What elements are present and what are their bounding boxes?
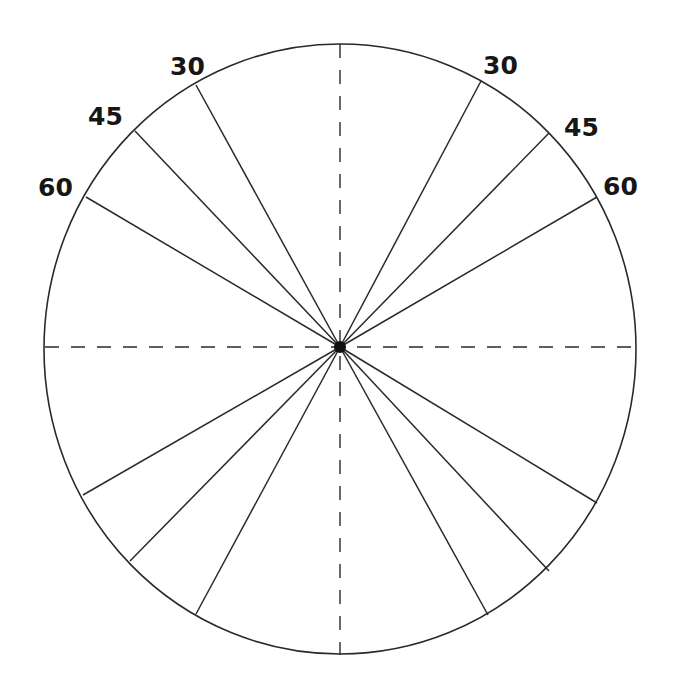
center-pivot-dot [334, 341, 346, 353]
protractor-diagram: 30 45 60 30 45 60 [0, 0, 681, 699]
spoke-lower-right-60 [340, 347, 597, 503]
spoke-lower-left-60 [83, 347, 340, 495]
label-upper-left-45: 45 [88, 102, 123, 131]
label-upper-right-30: 30 [483, 51, 518, 80]
label-upper-right-45: 45 [564, 113, 599, 142]
spoke-upper-left-45 [135, 131, 340, 347]
spoke-upper-right-30 [340, 81, 481, 347]
spoke-upper-right-60 [340, 197, 597, 347]
label-upper-left-60: 60 [38, 173, 73, 202]
diagram-canvas: 30 45 60 30 45 60 [0, 0, 681, 699]
spoke-upper-left-60 [86, 197, 340, 347]
spoke-upper-left-30 [196, 85, 340, 347]
label-upper-right-60: 60 [603, 172, 638, 201]
spoke-lower-left-30 [196, 347, 340, 614]
label-upper-left-30: 30 [170, 52, 205, 81]
spoke-lower-left-45 [130, 347, 340, 561]
spoke-upper-right-45 [340, 133, 549, 347]
